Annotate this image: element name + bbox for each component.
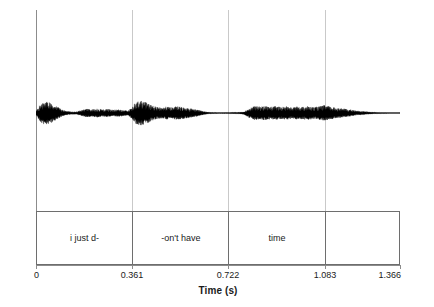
- waveform-figure: Amplitude (Pa) i just d--on't havetime 0…: [0, 0, 434, 307]
- x-tick-label-4: 1.366: [379, 270, 402, 280]
- tier-interval-2[interactable]: time: [229, 212, 325, 264]
- x-axis-title: Time (s): [36, 285, 400, 296]
- tier-interval-label: -on't have: [161, 233, 200, 243]
- x-axis-line: [36, 265, 400, 266]
- x-tick-label-1: 0.361: [121, 270, 144, 280]
- tier-interval-1[interactable]: -on't have: [133, 212, 229, 264]
- x-tick-label-2: 0.722: [217, 270, 240, 280]
- tier-interval-3[interactable]: [326, 212, 401, 264]
- x-tick-mark-1: [132, 265, 133, 269]
- x-tick-label-0: 0: [34, 270, 39, 280]
- x-tick-mark-4: [400, 265, 401, 269]
- tier-interval-label: i just d-: [70, 233, 99, 243]
- x-tick-mark-0: [36, 265, 37, 269]
- x-tick-label-3: 1.083: [314, 270, 337, 280]
- tier-interval-0[interactable]: i just d-: [37, 212, 133, 264]
- annotation-tier: i just d--on't havetime: [36, 211, 400, 265]
- x-tick-mark-3: [325, 265, 326, 269]
- waveform-trace: [36, 10, 400, 211]
- x-tick-mark-2: [228, 265, 229, 269]
- tier-interval-label: time: [268, 233, 285, 243]
- waveform-area: [36, 10, 400, 211]
